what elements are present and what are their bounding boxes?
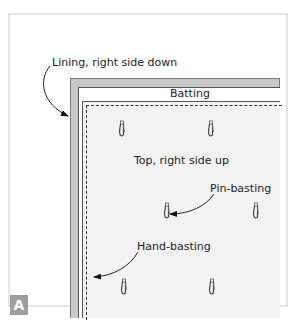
safety-pin-icon bbox=[120, 121, 125, 136]
hand-basting-arrow-icon bbox=[94, 252, 138, 277]
safety-pin-icon bbox=[122, 279, 127, 294]
safety-pin-icon bbox=[254, 203, 259, 218]
safety-pin-icon bbox=[210, 279, 215, 294]
annotation-overlay bbox=[0, 0, 304, 328]
safety-pin-icon bbox=[165, 203, 170, 218]
pin-basting-arrow-icon bbox=[170, 194, 214, 214]
safety-pin-icon bbox=[209, 121, 214, 136]
lining-arrow-icon bbox=[44, 66, 68, 116]
